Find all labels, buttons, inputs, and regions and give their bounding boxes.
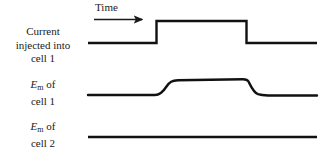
current-pulse-trace bbox=[88, 21, 317, 43]
em-cell1-trace bbox=[88, 79, 317, 95]
trace-canvas bbox=[0, 0, 328, 161]
electrophysiology-trace-figure: Time Current injected into cell 1 Em of … bbox=[0, 0, 328, 161]
